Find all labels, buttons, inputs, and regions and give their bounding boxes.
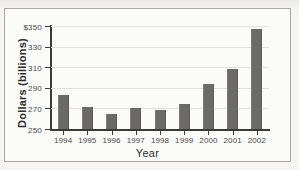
- bar: [203, 84, 214, 129]
- x-axis-title: Year: [5, 147, 290, 159]
- y-tick-mark: [45, 129, 50, 130]
- x-tick-label: 1999: [175, 136, 193, 145]
- y-tick-label: 250: [28, 125, 42, 134]
- x-tick-label: 1997: [127, 136, 145, 145]
- y-tick: 310: [50, 67, 55, 68]
- x-tick-label: 1995: [78, 136, 96, 145]
- x-tick-mark: [160, 131, 161, 135]
- y-tick: 270: [50, 108, 55, 109]
- x-tick-label: 1996: [102, 136, 120, 145]
- x-tick-mark: [184, 131, 185, 135]
- x-tick-mark: [233, 131, 234, 135]
- bar: [130, 108, 141, 129]
- plot-area: [51, 26, 269, 129]
- y-tick-label: 330: [28, 43, 42, 52]
- x-tick-mark: [63, 131, 64, 135]
- y-tick-mark: [45, 67, 50, 68]
- x-tick-label: 2002: [248, 136, 266, 145]
- page-root: Dollars (billions) 250270290310330$350 1…: [0, 0, 299, 170]
- gridline: [51, 26, 269, 27]
- x-tick-mark: [112, 131, 113, 135]
- y-tick-label: $350: [23, 22, 42, 31]
- x-tick-mark: [208, 131, 209, 135]
- bar-chart: Dollars (billions) 250270290310330$350 1…: [5, 9, 290, 161]
- gridline: [51, 47, 269, 48]
- y-tick-mark: [45, 26, 50, 27]
- x-tick-label: 2000: [199, 136, 217, 145]
- y-axis-title: Dollars (billions): [16, 33, 28, 133]
- y-tick-mark: [45, 47, 50, 48]
- bar: [106, 114, 117, 129]
- bar: [155, 110, 166, 129]
- y-tick: 250: [50, 129, 55, 130]
- y-tick-label: 290: [28, 84, 42, 93]
- x-tick-mark: [87, 131, 88, 135]
- gridline: [51, 67, 269, 68]
- y-tick: 330: [50, 47, 55, 48]
- bar: [179, 104, 190, 129]
- x-tick-label: 2001: [224, 136, 242, 145]
- y-tick-label: 270: [28, 104, 42, 113]
- bar: [227, 69, 238, 129]
- bar: [82, 107, 93, 129]
- x-tick-mark: [136, 131, 137, 135]
- x-tick-mark: [257, 131, 258, 135]
- x-tick-label: 1994: [54, 136, 72, 145]
- figure-frame: Dollars (billions) 250270290310330$350 1…: [4, 8, 291, 162]
- y-tick: $350: [50, 26, 55, 27]
- y-tick: 290: [50, 88, 55, 89]
- x-tick-label: 1998: [151, 136, 169, 145]
- y-tick-mark: [45, 108, 50, 109]
- y-tick-label: 310: [28, 63, 42, 72]
- y-tick-mark: [45, 88, 50, 89]
- bar: [58, 95, 69, 129]
- bar: [251, 29, 262, 129]
